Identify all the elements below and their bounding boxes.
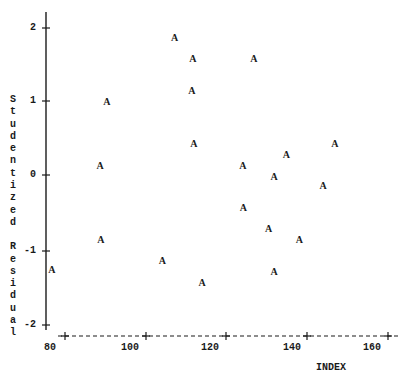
y-tick-label: -2: [10, 319, 36, 330]
y-axis-title-char: t: [8, 106, 18, 118]
data-point-marker: A: [296, 233, 303, 244]
x-tick-label: 120: [195, 342, 225, 353]
data-point-marker: A: [240, 201, 247, 212]
data-point-marker: A: [271, 265, 278, 276]
y-axis-title-char: s: [8, 266, 18, 278]
data-point-marker: A: [198, 276, 205, 287]
data-point-marker: A: [103, 95, 110, 106]
y-axis-title-char: u: [8, 303, 18, 315]
data-point-marker: A: [189, 52, 196, 63]
data-point-marker: A: [331, 138, 338, 149]
x-axis-title: INDEX: [316, 362, 346, 373]
y-axis-title-char: u: [8, 119, 18, 131]
scatter-plot: StudentizedResidual 2 1 0 -1 -2 80 100 1…: [0, 0, 403, 380]
data-point-marker: A: [96, 160, 103, 171]
y-axis-title-char: d: [8, 217, 18, 229]
y-axis-title-char: d: [8, 131, 18, 143]
y-axis-title-char: [8, 229, 18, 241]
data-point-marker: A: [97, 233, 104, 244]
data-point-marker: A: [188, 84, 195, 95]
data-point-marker: A: [265, 223, 272, 234]
data-point-marker: A: [159, 255, 166, 266]
x-tick-label: 100: [115, 342, 145, 353]
y-tick-label: 1: [10, 95, 36, 106]
y-tick-label: 2: [10, 22, 36, 33]
x-tick-label: 160: [357, 342, 387, 353]
data-point-marker: A: [239, 159, 246, 170]
plot-axes: [0, 0, 403, 380]
y-axis-title-char: z: [8, 192, 18, 204]
y-axis-title-char: e: [8, 205, 18, 217]
y-axis-title-char: d: [8, 290, 18, 302]
y-axis-title-char: e: [8, 143, 18, 155]
data-point-marker: A: [48, 263, 55, 274]
data-point-marker: A: [320, 179, 327, 190]
y-axis-title-char: i: [8, 278, 18, 290]
x-tick-label: 80: [35, 342, 65, 353]
y-axis-title: StudentizedResidual: [8, 94, 18, 340]
y-tick-label: -1: [10, 245, 36, 256]
data-point-marker: A: [271, 170, 278, 181]
y-axis-title-char: n: [8, 155, 18, 167]
data-point-marker: A: [250, 52, 257, 63]
data-point-marker: A: [190, 138, 197, 149]
x-tick-label: 140: [277, 342, 307, 353]
y-tick-label: 0: [10, 169, 36, 180]
data-point-marker: A: [171, 31, 178, 42]
y-axis-title-char: i: [8, 180, 18, 192]
data-point-marker: A: [283, 149, 290, 160]
